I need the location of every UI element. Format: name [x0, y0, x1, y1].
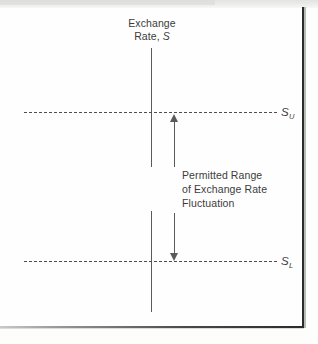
caption-line-1: Permitted Range: [182, 168, 280, 182]
lower-bound-subscript: L: [289, 261, 293, 270]
exchange-rate-band-figure: Exchange Rate, S Permitted Range of Exch…: [0, 0, 318, 344]
axis-title-line1: Exchange: [128, 17, 176, 29]
range-arrow-shaft-bottom: [174, 213, 175, 258]
lower-band-line: [24, 261, 277, 262]
caption-line-3: Fluctuation: [182, 196, 280, 210]
upper-bound-label: SU: [281, 106, 294, 118]
upper-bound-symbol: S: [281, 106, 289, 118]
page-border-bottom-shadow: [0, 328, 304, 329]
permitted-range-caption: Permitted Range of Exchange Rate Fluctua…: [151, 167, 280, 211]
axis-title: Exchange Rate, S: [104, 17, 200, 43]
range-arrow-shaft-top: [174, 120, 175, 168]
range-arrow-head-down: [170, 253, 178, 261]
upper-bound-subscript: U: [289, 112, 294, 121]
page-border-right-shadow: [304, 7, 306, 328]
scan-edge-top-shadow: [0, 0, 215, 5]
upper-band-line: [24, 112, 277, 113]
caption-line-2: of Exchange Rate: [182, 182, 280, 196]
axis-title-symbol: S: [163, 30, 170, 42]
lower-bound-label: SL: [281, 255, 293, 267]
axis-title-line2-prefix: Rate,: [134, 30, 163, 42]
lower-bound-symbol: S: [281, 255, 289, 267]
